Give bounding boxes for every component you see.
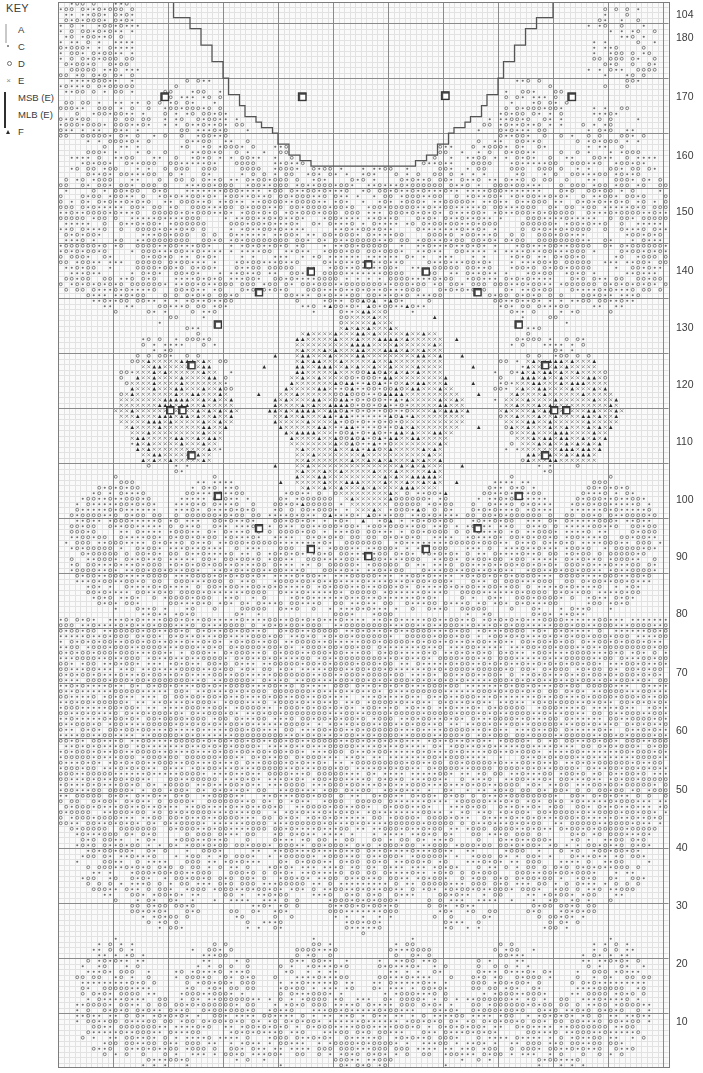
row-number-label: 170 — [676, 91, 694, 101]
key-label: MSB (E) — [18, 93, 54, 102]
row-number-axis: 1041801701601501401301201101009080706050… — [676, 0, 703, 1073]
row-number-label: 60 — [676, 725, 688, 735]
row-number-label: 100 — [676, 494, 694, 504]
small-dot-icon — [4, 42, 13, 51]
row-number-label: 70 — [676, 667, 688, 677]
key-title: KEY — [6, 2, 29, 14]
row-number-label: 140 — [676, 265, 694, 275]
key-entry-mlb: MLB (E) — [4, 107, 53, 121]
key-label: MLB (E) — [18, 110, 53, 119]
key-entry-e: × E — [4, 73, 24, 87]
key-entry-a: A — [4, 22, 24, 36]
row-number-label: 104 — [676, 9, 694, 19]
row-number-label: 10 — [676, 1016, 688, 1026]
chart-canvas — [58, 2, 670, 1068]
row-number-label: 110 — [676, 436, 693, 446]
key-entry-c: C — [4, 39, 25, 53]
key-label: E — [18, 76, 24, 85]
key-label: A — [18, 25, 24, 34]
key-label: C — [18, 42, 25, 51]
row-number-label: 20 — [676, 958, 688, 968]
light-square-icon — [4, 25, 13, 34]
key-label: D — [18, 59, 25, 68]
row-number-label: 130 — [676, 322, 694, 332]
key-label: F — [18, 127, 24, 136]
bead-square-large-icon — [4, 110, 13, 119]
key-entry-msb: MSB (E) — [4, 90, 54, 104]
row-number-label: 120 — [676, 379, 694, 389]
triangle-icon — [4, 127, 13, 136]
row-number-label: 90 — [676, 551, 688, 561]
open-dot-icon — [4, 59, 13, 68]
chart-key-panel: KEY A C D × E MSB (E) MLB (E) F — [0, 0, 58, 150]
key-entry-f: F — [4, 124, 24, 138]
row-number-label: 150 — [676, 206, 694, 216]
row-number-label: 80 — [676, 608, 688, 618]
cross-x-icon: × — [4, 76, 13, 85]
row-number-label: 40 — [676, 842, 688, 852]
row-number-label: 180 — [676, 32, 694, 42]
row-number-label: 30 — [676, 900, 688, 910]
bead-square-small-icon — [4, 93, 13, 102]
key-entry-d: D — [4, 56, 25, 70]
row-number-label: 160 — [676, 150, 694, 160]
row-number-label: 50 — [676, 784, 688, 794]
chart-grid — [58, 2, 670, 1068]
